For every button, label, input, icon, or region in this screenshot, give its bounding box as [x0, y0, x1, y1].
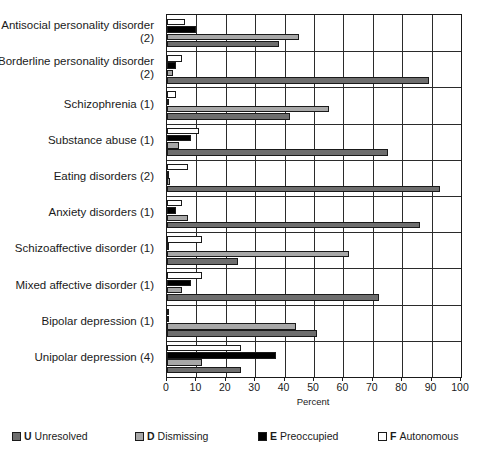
x-axis-tick-label: 50: [307, 381, 319, 393]
x-axis-title: Percent: [166, 396, 460, 407]
x-axis-tick-label: 100: [451, 381, 469, 393]
bar-e: [167, 243, 169, 250]
category-separator: [167, 232, 461, 233]
x-axis-tick-label: 0: [163, 381, 169, 393]
legend-swatch-icon: [12, 432, 21, 441]
legend-swatch-icon: [378, 432, 387, 441]
legend-key: U: [24, 430, 32, 442]
chart-legend: UUnresolvedDDismissingEPreoccupiedFAuton…: [0, 430, 487, 454]
y-axis-label: Bipolar depression (1): [0, 315, 154, 329]
bar-f: [167, 128, 199, 135]
bar-f: [167, 91, 176, 98]
bar-u: [167, 330, 317, 337]
bar-u: [167, 258, 238, 265]
bar-f: [167, 236, 202, 243]
y-axis-label: Anxiety disorders (1): [0, 206, 154, 220]
category-separator: [167, 268, 461, 269]
bar-f: [167, 345, 241, 352]
bar-u: [167, 294, 379, 301]
legend-label: Unresolved: [35, 430, 88, 442]
x-axis-ticks: 0102030405060708090100: [166, 377, 460, 393]
x-axis-tick-label: 80: [395, 381, 407, 393]
bar-d: [167, 142, 179, 149]
bar-d: [167, 359, 202, 366]
bar-e: [167, 62, 176, 69]
bar-e: [167, 135, 191, 142]
bar-d: [167, 178, 170, 185]
x-axis-tick-label: 10: [190, 381, 202, 393]
bar-e: [167, 316, 169, 323]
legend-label: Preoccupied: [280, 430, 338, 442]
x-axis-tick-label: 60: [337, 381, 349, 393]
legend-item-f[interactable]: FAutonomous: [378, 430, 458, 442]
bar-f: [167, 272, 202, 279]
legend-swatch-icon: [258, 432, 267, 441]
y-axis-label: Substance abuse (1): [0, 134, 154, 148]
legend-swatch-icon: [135, 432, 144, 441]
y-axis-label: Schizophrenia (1): [0, 98, 154, 112]
bar-d: [167, 287, 182, 294]
y-axis-label: Mixed affective disorder (1): [0, 279, 154, 293]
x-axis-tick-label: 30: [248, 381, 260, 393]
bar-f: [167, 309, 169, 316]
x-axis-tick-label: 20: [219, 381, 231, 393]
legend-key: D: [147, 430, 155, 442]
bar-chart: Antisocial personality disorder (2)Borde…: [0, 0, 487, 467]
category-separator: [167, 51, 461, 52]
bar-u: [167, 367, 241, 374]
x-axis-tick-label: 40: [278, 381, 290, 393]
bar-groups: [167, 15, 461, 377]
category-separator: [167, 87, 461, 88]
bar-d: [167, 251, 349, 258]
bar-u: [167, 77, 429, 84]
legend-key: E: [270, 430, 277, 442]
bar-d: [167, 323, 296, 330]
y-axis-label: Schizoaffective disorder (1): [0, 242, 154, 256]
plot-area: [166, 14, 462, 378]
bar-e: [167, 26, 196, 33]
category-separator: [167, 305, 461, 306]
y-axis-label: Eating disorders (2): [0, 170, 154, 184]
bar-f: [167, 19, 185, 26]
bar-e: [167, 280, 191, 287]
y-axis-category-labels: Antisocial personality disorder (2)Borde…: [0, 14, 160, 376]
category-separator: [167, 160, 461, 161]
legend-item-e[interactable]: EPreoccupied: [258, 430, 338, 442]
bar-u: [167, 149, 388, 156]
bar-d: [167, 34, 299, 41]
y-axis-label: Antisocial personality disorder (2): [0, 19, 154, 46]
x-axis-tick-label: 70: [366, 381, 378, 393]
bar-e: [167, 352, 276, 359]
bar-u: [167, 113, 290, 120]
legend-label: Autonomous: [399, 430, 458, 442]
x-axis-tick-label: 90: [425, 381, 437, 393]
bar-d: [167, 215, 188, 222]
category-separator: [167, 124, 461, 125]
bar-e: [167, 207, 176, 214]
bar-e: [167, 99, 169, 106]
category-separator: [167, 196, 461, 197]
bar-u: [167, 41, 279, 48]
bar-f: [167, 55, 182, 62]
bar-e: [167, 171, 169, 178]
legend-item-d[interactable]: DDismissing: [135, 430, 208, 442]
y-axis-label: Borderline personality disorder (2): [0, 55, 154, 82]
y-axis-label: Unipolar depression (4): [0, 351, 154, 365]
bar-u: [167, 222, 420, 229]
bar-d: [167, 70, 173, 77]
legend-item-u[interactable]: UUnresolved: [12, 430, 88, 442]
bar-u: [167, 186, 440, 193]
bar-f: [167, 164, 188, 171]
legend-label: Dismissing: [158, 430, 209, 442]
category-separator: [167, 341, 461, 342]
bar-d: [167, 106, 329, 113]
legend-key: F: [390, 430, 396, 442]
bar-f: [167, 200, 182, 207]
